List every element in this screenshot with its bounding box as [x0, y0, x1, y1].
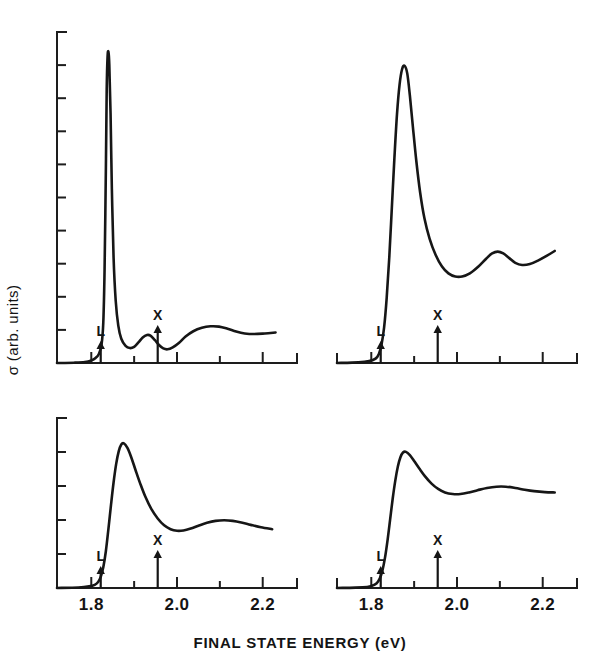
x-tick-label-group: 1.82.02.2 — [79, 595, 276, 614]
y-axis-line — [57, 418, 66, 588]
critical-point-label: L — [376, 323, 385, 339]
critical-point-label: L — [376, 548, 385, 564]
critical-point-marker-x: X — [433, 532, 443, 588]
x-tick-label: 2.2 — [250, 595, 275, 614]
axis-labels-layer: FINAL STATE ENERGY (eV) σ (arb. units) — [4, 285, 407, 651]
x-tick-group — [371, 352, 542, 363]
panel-bottom-left: LX1.82.02.2 — [57, 418, 297, 614]
critical-point-label: X — [433, 532, 443, 548]
x-tick-label: 2.0 — [444, 595, 469, 614]
arrow-head-icon — [154, 325, 162, 333]
panel-top-left: LX — [57, 32, 297, 363]
y-tick-group — [57, 452, 66, 554]
y-axis-title: σ (arb. units) — [4, 285, 21, 376]
critical-point-label: X — [153, 532, 163, 548]
spectrum-curve — [57, 51, 276, 363]
x-axis-title: FINAL STATE ENERGY (eV) — [193, 634, 406, 651]
critical-point-label: L — [96, 548, 105, 564]
critical-point-marker-x: X — [153, 307, 163, 363]
critical-point-marker-x: X — [433, 307, 443, 363]
y-tick-group — [57, 65, 66, 330]
x-tick-group — [91, 577, 262, 588]
x-tick-label: 1.8 — [359, 595, 384, 614]
arrow-head-icon — [377, 341, 385, 349]
arrow-head-icon — [97, 341, 105, 349]
spectrum-curve — [57, 443, 272, 588]
spectra-figure: LXLXLX1.82.02.2LX1.82.02.2 FINAL STATE E… — [0, 0, 600, 657]
x-tick-label: 1.8 — [79, 595, 104, 614]
panel-bottom-right: LX1.82.02.2 — [337, 452, 577, 614]
x-tick-group — [91, 352, 262, 363]
x-tick-label: 2.0 — [164, 595, 189, 614]
panels-layer: LXLXLX1.82.02.2LX1.82.02.2 — [57, 32, 577, 614]
figure-container: LXLXLX1.82.02.2LX1.82.02.2 FINAL STATE E… — [0, 0, 600, 657]
spectrum-curve — [337, 66, 555, 363]
arrow-head-icon — [154, 550, 162, 558]
x-tick-group — [371, 577, 542, 588]
critical-point-marker-x: X — [153, 532, 163, 588]
critical-point-label: X — [433, 307, 443, 323]
x-tick-label-group: 1.82.02.2 — [359, 595, 556, 614]
arrow-head-icon — [434, 550, 442, 558]
arrow-head-icon — [434, 325, 442, 333]
x-tick-label: 2.2 — [530, 595, 555, 614]
spectrum-curve — [337, 452, 555, 588]
critical-point-label: L — [96, 323, 105, 339]
critical-point-label: X — [153, 307, 163, 323]
panel-top-right: LX — [337, 66, 577, 363]
